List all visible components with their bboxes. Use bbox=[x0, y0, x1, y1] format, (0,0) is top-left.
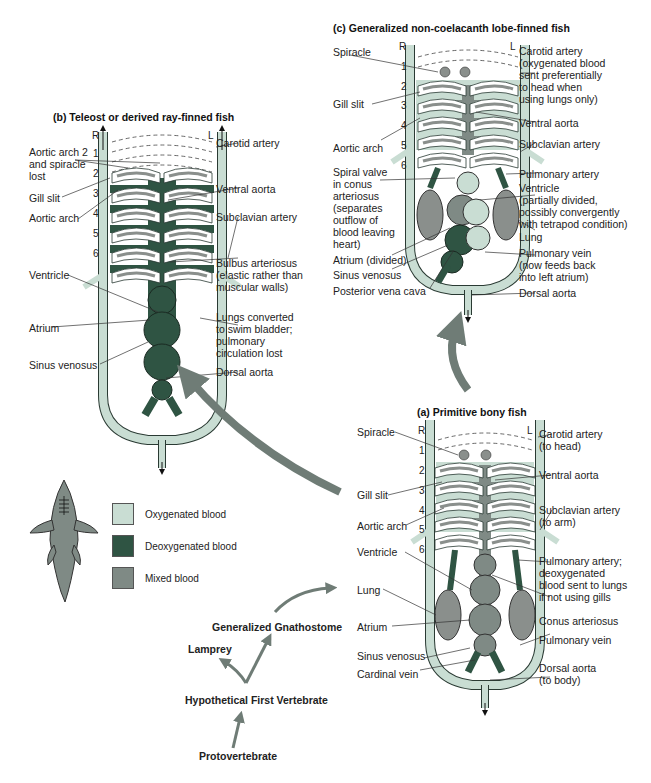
panel-a-label-lung: Lung bbox=[357, 584, 380, 596]
panel-b-label-aortic-arch-2-lost: Aortic arch 2 and spiracle lost bbox=[29, 146, 88, 182]
panel-c-title: (c) Generalized non-coelacanth lobe-finn… bbox=[333, 22, 570, 34]
panel-a-label-cardinal-vein: Cardinal vein bbox=[357, 668, 418, 680]
panel-a-label-atrium: Atrium bbox=[357, 621, 387, 633]
panel-c-label-ventricle: Ventricle (partially divided, possibly c… bbox=[519, 182, 628, 230]
panel-a-label-ventricle: Ventricle bbox=[357, 546, 397, 558]
panel-c-arch-3: 3 bbox=[401, 100, 407, 111]
panel-b-label-carotid-artery: Carotid artery bbox=[216, 137, 280, 149]
panel-a-label-ventral-aorta: Ventral aorta bbox=[539, 469, 599, 481]
panel-c-label-carotid-artery: Carotid artery (oxygenated blood sent pr… bbox=[519, 45, 605, 105]
tree-node-lamprey: Lamprey bbox=[188, 643, 232, 655]
shark-silhouette-icon bbox=[30, 480, 98, 602]
tree-node-generalized-gnathostome: Generalized Gnathostome bbox=[212, 621, 342, 633]
panel-b-arch-5: 5 bbox=[93, 228, 99, 239]
panel-a-arch-4: 4 bbox=[419, 505, 425, 516]
panel-b-side-l: L bbox=[208, 130, 214, 141]
panel-c-label-spiracle: Spiracle bbox=[333, 46, 371, 58]
tree-node-hypothetical-first-vertebrate: Hypothetical First Vertebrate bbox=[185, 694, 328, 706]
panel-b-label-atrium: Atrium bbox=[29, 322, 59, 334]
panel-b-arch-1: 1 bbox=[93, 148, 99, 159]
panel-c-label-gill-slit: Gill slit bbox=[333, 98, 364, 110]
panel-c-label-atrium-divided: Atrium (divided) bbox=[333, 254, 407, 266]
panel-c-arch-2: 2 bbox=[401, 81, 407, 92]
legend-swatch-deoxygenated bbox=[112, 535, 134, 557]
panel-c-label-dorsal-aorta: Dorsal aorta bbox=[519, 287, 576, 299]
panel-a-arch-5: 5 bbox=[419, 524, 425, 535]
panel-c-arch-4: 4 bbox=[401, 120, 407, 131]
legend-label-deoxygenated: Deoxygenated blood bbox=[145, 541, 237, 552]
panel-a-arch-6: 6 bbox=[419, 544, 425, 555]
legend-swatch-mixed bbox=[112, 567, 134, 589]
panel-c-side-l: L bbox=[510, 41, 516, 52]
panel-c-label-spiral-valve: Spiral valve in conus arteriosus (separa… bbox=[333, 166, 395, 250]
panel-b-label-dorsal-aorta: Dorsal aorta bbox=[216, 366, 273, 378]
panel-a-label-conus-arteriosus: Conus arteriosus bbox=[539, 615, 618, 627]
panel-b-label-sinus-venosus: Sinus venosus bbox=[29, 359, 97, 371]
panel-c-label-pulmonary-vein: Pulmonary vein (now feeds back into left… bbox=[519, 247, 595, 283]
panel-a-label-dorsal-aorta: Dorsal aorta (to body) bbox=[539, 662, 596, 686]
panel-b-label-aortic-arch: Aortic arch bbox=[29, 212, 79, 224]
panel-a-side-r: R bbox=[418, 425, 425, 436]
panel-b-label-ventral-aorta: Ventral aorta bbox=[216, 183, 276, 195]
panel-b-arch-2: 2 bbox=[93, 168, 99, 179]
panel-c-label-lung: Lung bbox=[519, 231, 542, 243]
panel-a-label-gill-slit: Gill slit bbox=[357, 489, 388, 501]
panel-a-label-spiracle: Spiracle bbox=[357, 426, 395, 438]
panel-b-title: (b) Teleost or derived ray-finned fish bbox=[53, 111, 234, 123]
panel-a-label-pulmonary-vein: Pulmonary vein bbox=[539, 634, 611, 646]
panel-a-label-aortic-arch: Aortic arch bbox=[357, 520, 407, 532]
panel-c-label-ventral-aorta: Ventral aorta bbox=[519, 117, 579, 129]
panel-a-label-pulmonary-artery: Pulmonary artery; deoxygenated blood sen… bbox=[539, 555, 627, 603]
panel-a-side-l: L bbox=[527, 425, 533, 436]
panel-a-label-carotid-artery: Carotid artery (to head) bbox=[539, 428, 603, 452]
panel-b-arch-4: 4 bbox=[93, 208, 99, 219]
panel-c-arch-6: 6 bbox=[401, 160, 407, 171]
panel-b-label-swim-bladder: Lungs converted to swim bladder; pulmona… bbox=[216, 311, 294, 359]
panel-b-arch-6: 6 bbox=[93, 248, 99, 259]
panel-b-teleost-diagram bbox=[84, 128, 240, 472]
panel-b-label-bulbus-arteriosus: Bulbus arteriosus (elastic rather than m… bbox=[216, 257, 303, 293]
panel-b-side-r: R bbox=[92, 130, 99, 141]
panel-a-arch-3: 3 bbox=[419, 485, 425, 496]
panel-c-label-sinus-venosus: Sinus venosus bbox=[333, 269, 401, 281]
panel-b-label-ventricle: Ventricle bbox=[29, 269, 69, 281]
panel-c-arch-1: 1 bbox=[401, 61, 407, 72]
panel-a-arch-1: 1 bbox=[419, 445, 425, 456]
panel-c-label-subclavian-artery: Subclavian artery bbox=[519, 138, 600, 150]
tree-node-protovertebrate: Protovertebrate bbox=[199, 750, 277, 762]
panel-c-label-posterior-vena-cava: Posterior vena cava bbox=[333, 285, 426, 297]
panel-b-label-gill-slit: Gill slit bbox=[29, 192, 60, 204]
panel-c-label-pulmonary-artery: Pulmonary artery bbox=[519, 168, 599, 180]
panel-a-title: (a) Primitive bony fish bbox=[417, 406, 527, 418]
panel-a-primitive-diagram bbox=[412, 420, 558, 713]
panel-c-arch-5: 5 bbox=[401, 140, 407, 151]
panel-a-label-subclavian-artery: Subclavian artery (to arm) bbox=[539, 504, 620, 528]
panel-a-arch-2: 2 bbox=[419, 465, 425, 476]
legend-label-mixed: Mixed blood bbox=[145, 573, 199, 584]
panel-b-label-subclavian-artery: Subclavian artery bbox=[216, 211, 297, 223]
panel-c-side-r: R bbox=[399, 41, 406, 52]
panel-b-arch-3: 3 bbox=[93, 188, 99, 199]
legend-swatch-oxygenated bbox=[112, 503, 134, 525]
panel-a-label-sinus-venosus: Sinus venosus bbox=[357, 650, 425, 662]
legend-label-oxygenated: Oxygenated blood bbox=[145, 509, 226, 520]
panel-c-label-aortic-arch: Aortic arch bbox=[333, 142, 383, 154]
